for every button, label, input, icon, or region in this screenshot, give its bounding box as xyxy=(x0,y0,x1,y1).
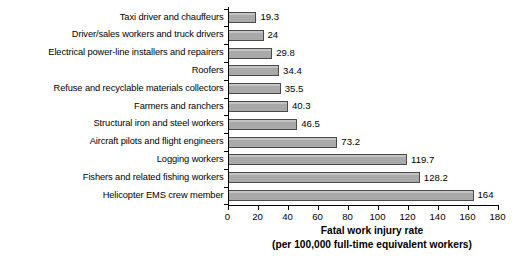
y-axis-tick xyxy=(224,44,228,45)
category-label: Driver/sales workers and truck drivers xyxy=(0,29,224,40)
y-axis-tick xyxy=(224,115,228,116)
category-label: Taxi driver and chauffeurs xyxy=(0,12,224,23)
category-label: Refuse and recyclable materials collecto… xyxy=(0,83,224,94)
category-label: Aircraft pilots and flight engineers xyxy=(0,136,224,147)
y-axis-tick xyxy=(224,80,228,81)
bar xyxy=(228,12,257,23)
x-axis-tick xyxy=(288,206,289,210)
bar xyxy=(228,48,273,59)
x-axis-tick xyxy=(318,206,319,210)
y-axis-line xyxy=(228,7,229,206)
bar xyxy=(228,119,298,130)
x-axis-line xyxy=(228,205,499,206)
x-axis-tick xyxy=(408,206,409,210)
y-axis-tick xyxy=(224,151,228,152)
category-label: Farmers and ranchers xyxy=(0,101,224,112)
y-axis-tick xyxy=(224,98,228,99)
bar-value-label: 34.4 xyxy=(283,65,302,76)
y-axis-tick xyxy=(224,26,228,27)
bar xyxy=(228,172,420,183)
x-axis-tick xyxy=(348,206,349,210)
bar-value-label: 29.8 xyxy=(276,47,295,58)
bar xyxy=(228,65,280,76)
category-label: Helicopter EMS crew member xyxy=(0,190,224,201)
bar-value-label: 24 xyxy=(268,29,279,40)
category-label: Fishers and related fishing workers xyxy=(0,172,224,183)
y-axis-tick xyxy=(224,133,228,134)
y-axis-tick xyxy=(224,169,228,170)
y-axis-tick xyxy=(224,62,228,63)
x-axis-tick-label: 180 xyxy=(478,211,516,222)
y-axis-tick xyxy=(224,204,228,205)
bar xyxy=(228,154,408,165)
category-label: Structural iron and steel workers xyxy=(0,118,224,129)
bar xyxy=(228,83,281,94)
category-label: Logging workers xyxy=(0,154,224,165)
bar-value-label: 119.7 xyxy=(411,154,434,165)
category-label: Electrical power-line installers and rep… xyxy=(0,47,224,58)
bar-value-label: 73.2 xyxy=(341,136,360,147)
y-axis-tick xyxy=(224,187,228,188)
bar-value-label: 19.3 xyxy=(260,11,279,22)
fatal-work-injury-rate-bar-chart: Taxi driver and chauffeursDriver/sales w… xyxy=(0,0,516,263)
x-axis-tick xyxy=(378,206,379,210)
y-axis-tick xyxy=(224,9,228,10)
bar xyxy=(228,30,264,41)
bar-value-label: 128.2 xyxy=(424,172,448,183)
x-axis-tick xyxy=(228,206,229,210)
bar-value-label: 46.5 xyxy=(301,118,320,129)
bar xyxy=(228,101,288,112)
x-axis-title-line1: Fatal work injury rate xyxy=(227,224,516,237)
x-axis-tick xyxy=(468,206,469,210)
bar xyxy=(228,137,338,148)
x-axis-tick xyxy=(258,206,259,210)
x-axis-title-line2: (per 100,000 full-time equivalent worker… xyxy=(227,238,516,251)
bar xyxy=(228,190,474,201)
x-axis-tick xyxy=(438,206,439,210)
category-label: Roofers xyxy=(0,65,224,76)
bar-value-label: 164 xyxy=(478,189,494,200)
bar-value-label: 35.5 xyxy=(285,83,304,94)
x-axis-tick xyxy=(498,206,499,210)
bar-value-label: 40.3 xyxy=(292,100,311,111)
